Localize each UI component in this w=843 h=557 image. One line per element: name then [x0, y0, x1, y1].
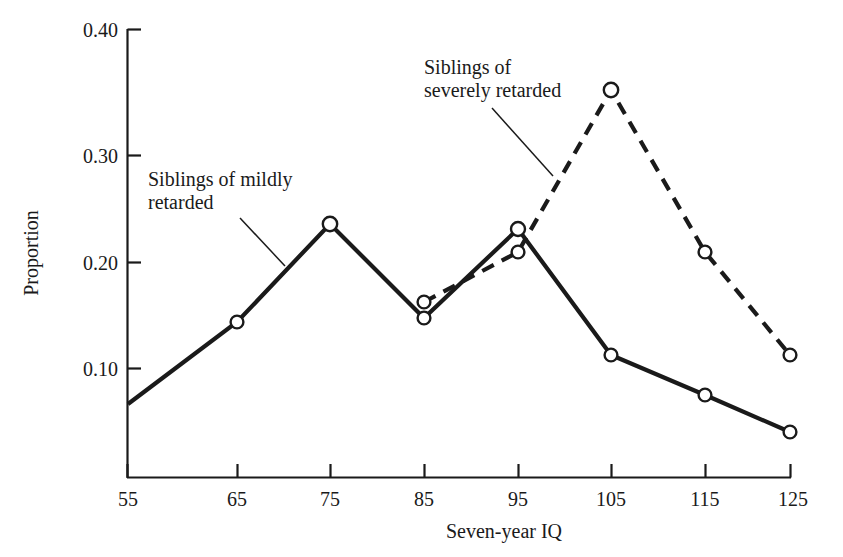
solid-series-line	[128, 224, 790, 432]
x-tick-label-115: 115	[690, 488, 719, 510]
x-tick-label-95: 95	[508, 488, 528, 510]
y-tick-label-0-20: 0.20	[83, 252, 118, 274]
series-siblings-of-severely-retarded	[418, 83, 797, 362]
chart-figure: 0.40 0.30 0.20 0.10 55 65 75 85 95 105 1…	[0, 0, 843, 557]
annotation-severely-retarded: Siblings of severely retarded	[424, 56, 561, 176]
y-tick-label-0-10: 0.10	[83, 358, 118, 380]
y-tick-marks	[128, 156, 142, 369]
annotation-mildly-retarded: Siblings of mildly retarded	[148, 168, 292, 266]
x-tick-label-125: 125	[778, 488, 808, 510]
marker-dashed-125	[784, 349, 797, 362]
marker-solid-75	[323, 217, 337, 231]
annotation-mildly-line2: retarded	[148, 191, 214, 213]
marker-solid-85	[418, 312, 431, 325]
y-tick-labels: 0.40 0.30 0.20 0.10	[83, 19, 118, 380]
x-tick-label-65: 65	[227, 488, 247, 510]
annotation-mildly-line1: Siblings of mildly	[148, 168, 292, 191]
x-tick-label-75: 75	[320, 488, 340, 510]
series-siblings-of-mildly-retarded	[128, 217, 796, 439]
x-axis-title: Seven-year IQ	[446, 520, 563, 543]
y-tick-label-0-40: 0.40	[83, 19, 118, 41]
marker-solid-115	[699, 389, 712, 402]
x-tick-label-85: 85	[414, 488, 434, 510]
y-tick-label-0-30: 0.30	[83, 145, 118, 167]
marker-solid-105	[605, 349, 618, 362]
marker-dashed-105	[604, 83, 618, 97]
x-tick-label-55: 55	[118, 488, 138, 510]
marker-dashed-115	[699, 246, 712, 259]
marker-dashed-95	[512, 246, 525, 259]
marker-solid-65	[231, 316, 244, 329]
line-chart-canvas: 0.40 0.30 0.20 0.10 55 65 75 85 95 105 1…	[0, 0, 843, 557]
annotation-severely-line2: severely retarded	[424, 79, 561, 102]
y-axis-title: Proportion	[20, 210, 43, 296]
x-tick-labels: 55 65 75 85 95 105 115 125	[118, 488, 808, 510]
annotation-mildly-leader-line	[240, 218, 285, 266]
annotation-severely-leader-line	[492, 108, 553, 176]
x-tick-marks	[238, 464, 706, 478]
dashed-series-line	[424, 90, 790, 355]
marker-solid-95	[511, 222, 525, 236]
annotation-severely-line1: Siblings of	[424, 56, 512, 79]
marker-solid-125	[784, 426, 797, 439]
marker-dashed-85	[418, 296, 431, 309]
x-tick-label-105: 105	[596, 488, 626, 510]
